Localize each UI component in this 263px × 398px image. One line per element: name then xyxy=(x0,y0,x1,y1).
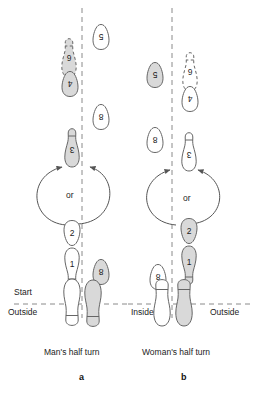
turn-arrow-b-right xyxy=(190,170,220,224)
caption-panel-a: Man's half turn xyxy=(44,348,99,357)
start-foot-b-left xyxy=(154,280,170,326)
footprint-b-8-upper-label: 8 xyxy=(152,135,157,145)
diagram-canvas: 6 4 5 8 3 2 1 xyxy=(0,0,263,398)
panel-a-mans-half-turn: 6 4 5 8 3 2 1 xyxy=(37,24,110,326)
start-foot-a-left xyxy=(64,279,80,325)
footprint-a-5-label: 5 xyxy=(98,32,103,42)
footprint-a-8-upper-label: 8 xyxy=(98,112,103,122)
start-label: Start xyxy=(14,288,32,297)
turn-arrow-a-right xyxy=(78,167,110,224)
start-foot-b-right xyxy=(176,280,192,326)
inside-label: Inside xyxy=(131,308,154,317)
footprint-b-1-label: 1 xyxy=(187,257,192,267)
footprint-a-4-label: 4 xyxy=(67,79,72,89)
panel-letter-b: b xyxy=(181,372,187,382)
footprint-a-6-label: 6 xyxy=(66,53,71,63)
panel-b-womans-half-turn: 6 4 5 8 3 2 1 xyxy=(147,53,220,326)
or-label-a: or xyxy=(66,190,74,200)
footprint-b-5-label: 5 xyxy=(152,70,157,80)
start-foot-a-right xyxy=(85,280,101,326)
reference-lines xyxy=(14,8,252,318)
dance-step-diagram: 6 4 5 8 3 2 1 xyxy=(0,0,263,398)
or-label-b: or xyxy=(183,193,191,203)
panel-letter-a: a xyxy=(79,372,84,382)
footprint-a-8-lower-label: 8 xyxy=(98,267,103,277)
footprint-b-4-label: 4 xyxy=(187,94,192,104)
caption-panel-b: Woman's half turn xyxy=(142,348,210,357)
footprint-a-1-label: 1 xyxy=(70,259,75,269)
footprint-a-2-label: 2 xyxy=(70,228,75,238)
turn-arrow-a-left xyxy=(37,167,66,225)
footprint-b-6-label: 6 xyxy=(187,67,192,77)
footprint-a-3-label: 3 xyxy=(69,145,74,155)
outside-left-label: Outside xyxy=(8,308,37,317)
footprint-b-2-label: 2 xyxy=(187,226,192,236)
footprint-b-3-label: 3 xyxy=(186,150,191,160)
outside-right-label: Outside xyxy=(210,308,239,317)
